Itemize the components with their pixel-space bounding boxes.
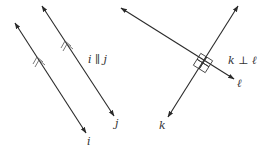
perpendicular-lines-figure: k ℓ k ⊥ ℓ bbox=[121, 6, 257, 132]
label-i: i bbox=[87, 135, 91, 148]
line-l bbox=[121, 8, 234, 79]
parallel-lines-figure: i j i ∥ j bbox=[15, 6, 119, 148]
perpendicular-relation-label: k ⊥ ℓ bbox=[228, 54, 257, 67]
line-i bbox=[15, 23, 86, 133]
parallel-marker-j-icon bbox=[61, 41, 73, 51]
lines-diagram: i j i ∥ j k ℓ k ⊥ ℓ bbox=[0, 0, 267, 150]
right-angle-marker-icon bbox=[193, 53, 212, 72]
label-j: j bbox=[112, 117, 119, 130]
parallel-marker-i-icon bbox=[33, 57, 45, 67]
parallel-relation-label: i ∥ j bbox=[88, 53, 108, 66]
label-l: ℓ bbox=[237, 77, 242, 90]
label-k: k bbox=[159, 119, 166, 132]
